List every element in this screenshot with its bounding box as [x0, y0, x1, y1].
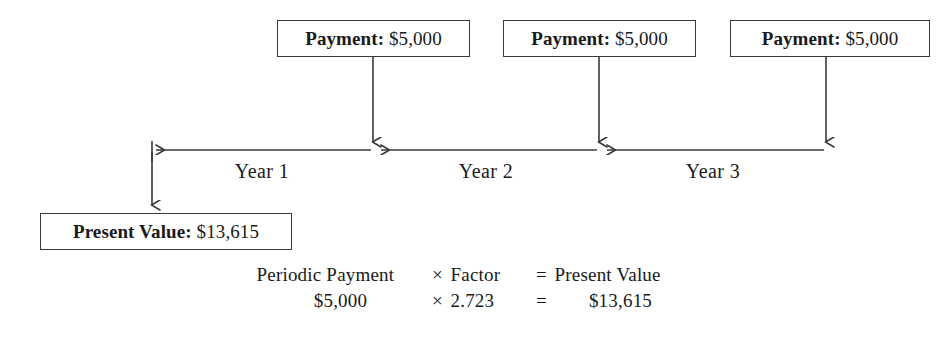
payment-box-1-text: Payment: $5,000: [305, 29, 442, 48]
present-value-amount: $13,615: [197, 221, 259, 242]
formula-word-op2: =: [529, 262, 555, 288]
formula-value-op1: ×: [425, 288, 451, 314]
present-value-label: Present Value:: [73, 221, 192, 242]
formula-block: Periodic Payment × Factor = Present Valu…: [0, 262, 943, 314]
present-value-box: Present Value: $13,615: [40, 213, 292, 250]
formula-values-row: $5,000 × 2.723 = $13,615: [0, 288, 943, 314]
payment-box-2: Payment: $5,000: [503, 20, 696, 57]
formula-word-term3: Present Value: [555, 262, 687, 288]
payment-box-2-text: Payment: $5,000: [531, 29, 668, 48]
payment-2-amount: $5,000: [615, 28, 668, 49]
annuity-present-value-diagram: Payment: $5,000 Payment: $5,000 Payment:…: [0, 0, 943, 343]
payment-3-label: Payment:: [762, 28, 841, 49]
payment-box-1: Payment: $5,000: [277, 20, 470, 57]
formula-value-op2: =: [529, 288, 555, 314]
formula-word-term2: Factor: [451, 262, 529, 288]
formula-value-term2: 2.723: [451, 288, 529, 314]
year-2-label: Year 2: [372, 160, 600, 183]
payment-3-amount: $5,000: [845, 28, 898, 49]
payment-1-label: Payment:: [305, 28, 384, 49]
payment-1-amount: $5,000: [389, 28, 442, 49]
payment-2-label: Payment:: [531, 28, 610, 49]
payment-box-3-text: Payment: $5,000: [762, 29, 899, 48]
formula-word-term1: Periodic Payment: [257, 262, 425, 288]
present-value-box-text: Present Value: $13,615: [73, 222, 259, 241]
formula-words-row: Periodic Payment × Factor = Present Valu…: [0, 262, 943, 288]
year-3-label: Year 3: [600, 160, 826, 183]
formula-word-op1: ×: [425, 262, 451, 288]
formula-value-term1: $5,000: [257, 288, 425, 314]
formula-value-term3: $13,615: [555, 288, 687, 314]
year-1-label: Year 1: [152, 160, 372, 183]
payment-box-3: Payment: $5,000: [730, 20, 930, 57]
